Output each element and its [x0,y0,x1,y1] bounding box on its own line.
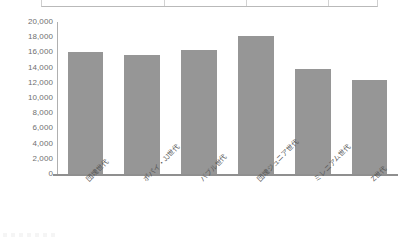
y-axis-tick-label: 16,000 [1,48,53,56]
bar [68,52,104,174]
bar [181,50,217,174]
bar-slot [228,22,285,174]
y-axis-tick-label: 20,000 [1,18,53,26]
y-axis-tick-label: 4,000 [1,140,53,148]
table-column-divider [328,0,329,6]
bar [295,69,331,174]
bar-slot [114,22,171,174]
table-border-fragment [41,0,378,7]
y-axis-tick-label: 18,000 [1,33,53,41]
x-axis-category-labels: 団塊世代ポパイ・JJ世代バブル世代団塊ジュニア世代ミレニアム世代Z世代 [57,176,398,244]
bar [238,36,274,174]
y-axis-tick-label: 14,000 [1,64,53,72]
table-column-divider [164,0,165,6]
bar-chart: 20,00018,00016,00014,00012,00010,0008,00… [0,0,419,244]
page-artifact [3,233,59,237]
bar-slot [57,22,114,174]
y-axis-tick-label: 12,000 [1,79,53,87]
bar-slot [171,22,228,174]
y-axis-tick-label: 6,000 [1,124,53,132]
y-axis-tick-label: 2,000 [1,155,53,163]
y-axis-tick-label: 0 [1,170,53,178]
y-axis-tick-label: 8,000 [1,109,53,117]
y-axis-tick-labels: 20,00018,00016,00014,00012,00010,0008,00… [0,0,53,176]
bar [124,55,160,174]
y-axis-tick-label: 10,000 [1,94,53,102]
table-column-divider [246,0,247,6]
bar [352,80,388,174]
